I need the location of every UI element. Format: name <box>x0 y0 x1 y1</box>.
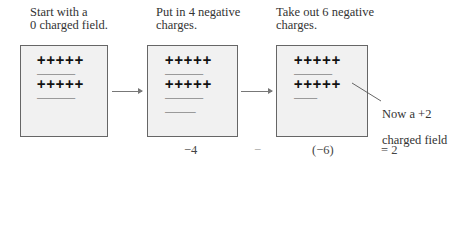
equation-term-2: (−6) <box>312 143 334 158</box>
annotation-label: Now a +2 charged field <box>382 95 447 147</box>
equation-term-1: −4 <box>184 143 197 158</box>
annotation-line-1: Now a +2 <box>382 107 431 121</box>
equation-result: = 2 <box>381 143 397 158</box>
equation-operator: − <box>254 143 261 158</box>
